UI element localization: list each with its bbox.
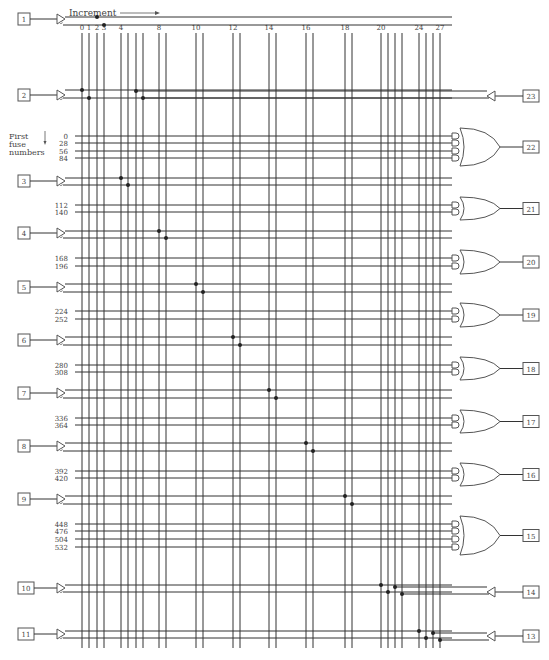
pin-label-16: 16 bbox=[527, 472, 536, 480]
connection-dot bbox=[311, 449, 315, 453]
pin-label-1: 1 bbox=[22, 16, 26, 24]
connection-dot bbox=[424, 636, 428, 640]
pin-label-4: 4 bbox=[22, 230, 27, 238]
connection-dot bbox=[400, 592, 404, 596]
inverter-bubble-icon bbox=[60, 183, 62, 185]
connection-dot bbox=[102, 23, 106, 27]
pal-logic-diagram: Increment First fuse numbers 01234810121… bbox=[0, 0, 549, 660]
inverter-bubble-icon bbox=[60, 448, 62, 450]
and-gate-icon bbox=[452, 528, 459, 534]
inverter-bubble-icon bbox=[60, 395, 62, 397]
pin-label-2: 2 bbox=[22, 92, 26, 100]
pin-label-21: 21 bbox=[527, 206, 536, 214]
pin-label-18: 18 bbox=[527, 366, 536, 374]
and-gate-icon bbox=[452, 255, 459, 261]
connection-dot bbox=[386, 590, 390, 594]
and-gate-icon bbox=[452, 544, 459, 550]
connection-dot bbox=[304, 441, 308, 445]
connection-dot bbox=[134, 89, 138, 93]
and-gate-icon bbox=[452, 362, 459, 368]
pin-label-17: 17 bbox=[527, 419, 536, 427]
and-gate-icon bbox=[452, 263, 459, 269]
connection-dot bbox=[343, 494, 347, 498]
connection-dot bbox=[194, 282, 198, 286]
fuse-number-84: 84 bbox=[59, 155, 68, 163]
connection-dot bbox=[274, 396, 278, 400]
and-gate-icon bbox=[452, 422, 459, 428]
pin-label-11: 11 bbox=[22, 631, 31, 639]
fuse-number-364: 364 bbox=[55, 422, 69, 430]
connection-dot bbox=[126, 183, 130, 187]
feedback-buffer-icon bbox=[487, 587, 495, 597]
connection-dot bbox=[350, 502, 354, 506]
first-fuse-header: First fuse numbers bbox=[9, 131, 47, 157]
pin-label-23: 23 bbox=[527, 93, 536, 101]
and-gate-icon bbox=[452, 148, 459, 154]
fuse-number-140: 140 bbox=[55, 209, 68, 217]
and-gate-icon bbox=[452, 209, 459, 215]
pin-label-20: 20 bbox=[527, 259, 536, 267]
connection-dot bbox=[438, 638, 442, 642]
connection-dot bbox=[119, 176, 123, 180]
or-gate-icon bbox=[460, 463, 500, 486]
and-gate-icon bbox=[452, 202, 459, 208]
fuse-number-504: 504 bbox=[55, 536, 69, 544]
connection-dot bbox=[379, 583, 383, 587]
pin-label-3: 3 bbox=[22, 178, 26, 186]
fuse-number-476: 476 bbox=[55, 528, 69, 536]
pin-label-19: 19 bbox=[527, 312, 536, 320]
fuse-number-168: 168 bbox=[55, 255, 68, 263]
inverter-bubble-icon bbox=[60, 235, 62, 237]
fuse-number-532: 532 bbox=[55, 544, 68, 552]
connection-dot bbox=[141, 96, 145, 100]
inverter-bubble-icon bbox=[60, 342, 62, 344]
down-arrow-head-icon bbox=[44, 141, 47, 145]
connection-dot bbox=[95, 15, 99, 19]
inverter-bubble-icon bbox=[60, 97, 62, 99]
fuse-number-196: 196 bbox=[55, 263, 69, 271]
input-pins: 1234567891011 bbox=[18, 13, 452, 640]
inverter-bubble-icon bbox=[60, 289, 62, 291]
fuse-number-420: 420 bbox=[55, 475, 68, 483]
product-term-rows: 0285684112140168196224252280308336364392… bbox=[55, 133, 452, 552]
or-gate-icon bbox=[460, 410, 500, 433]
pin-label-13: 13 bbox=[527, 633, 536, 641]
pin-label-15: 15 bbox=[527, 533, 536, 541]
fuse-number-224: 224 bbox=[55, 308, 69, 316]
connection-dot bbox=[417, 629, 421, 633]
pin-label-14: 14 bbox=[527, 589, 536, 597]
arrow-head-icon bbox=[155, 11, 160, 15]
and-gate-icon bbox=[452, 521, 459, 527]
inverter-bubble-icon bbox=[60, 636, 62, 638]
pin-label-22: 22 bbox=[527, 144, 536, 152]
inverter-bubble-icon bbox=[60, 590, 62, 592]
pin-label-10: 10 bbox=[22, 585, 31, 593]
output-gates: 2221201918171615 bbox=[452, 128, 539, 555]
or-gate-icon bbox=[460, 128, 500, 166]
connection-dot bbox=[238, 343, 242, 347]
and-gate-icon bbox=[452, 369, 459, 375]
connection-dot bbox=[231, 335, 235, 339]
connection-dot bbox=[164, 236, 168, 240]
pin-label-8: 8 bbox=[22, 443, 26, 451]
connection-dot bbox=[431, 631, 435, 635]
feedback-buffer-icon bbox=[487, 91, 495, 101]
connection-dot bbox=[201, 290, 205, 294]
and-gate-icon bbox=[452, 133, 459, 139]
or-gate-icon bbox=[460, 516, 500, 555]
first-fuse-line-3: numbers bbox=[9, 148, 45, 157]
and-gate-icon bbox=[452, 415, 459, 421]
connection-dot bbox=[157, 229, 161, 233]
pin-label-6: 6 bbox=[22, 337, 27, 345]
pin-label-5: 5 bbox=[22, 284, 26, 292]
connection-dot bbox=[87, 96, 91, 100]
or-gate-icon bbox=[460, 197, 500, 220]
connection-dot bbox=[80, 88, 84, 92]
or-gate-icon bbox=[460, 250, 500, 274]
fuse-number-308: 308 bbox=[55, 369, 68, 377]
pin-label-9: 9 bbox=[22, 496, 26, 504]
column-lines bbox=[82, 33, 440, 648]
and-gate-icon bbox=[452, 155, 459, 161]
and-gate-icon bbox=[452, 308, 459, 314]
and-gate-icon bbox=[452, 536, 459, 542]
